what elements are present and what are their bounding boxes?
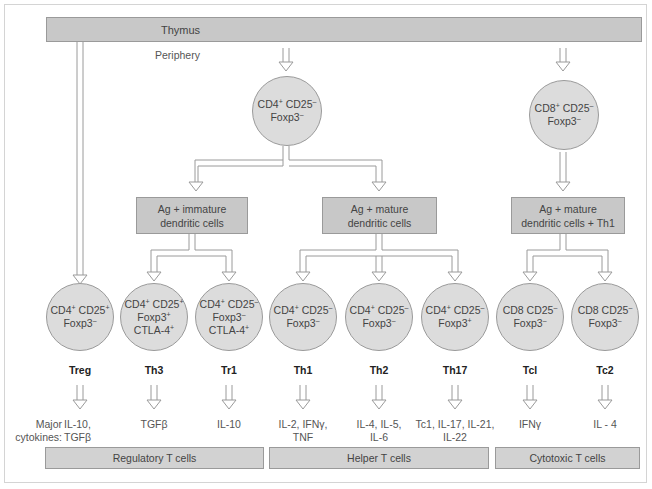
cell-tcl: CD8 CD25–Foxp3– <box>496 283 564 351</box>
stimulus-immature-dc: Ag + immature dendritic cells <box>136 197 248 234</box>
subset-name-th3: Th3 <box>119 364 189 376</box>
cytokines-tc2: IL - 4 <box>568 418 642 431</box>
cell-th3: CD4+ CD25+Foxp3+CTLA-4+ <box>120 283 188 351</box>
thymus-label: Thymus <box>161 24 200 36</box>
naive-cd4-cell: CD4+ CD25–Foxp3– <box>252 76 322 146</box>
cell-th1: CD4+ CD25–Foxp3– <box>269 283 337 351</box>
cell-tr1: CD4+ CD25–Foxp3–CTLA-4+ <box>195 283 263 351</box>
cell-treg: CD4+ CD25+Foxp3– <box>46 283 114 351</box>
cytokines-treg: IL-10, TGFβ <box>59 418 108 444</box>
subset-name-th17: Th17 <box>420 364 490 376</box>
major-cytokines-label: Major cytokines: <box>0 418 62 444</box>
cytokines-tr1: IL-10 <box>192 418 266 431</box>
stimulus-mature-dc: Ag + mature dendritic cells <box>322 197 437 234</box>
connector-arrows <box>0 0 652 489</box>
naive-cd8-cell: CD8+ CD25–Foxp3– <box>529 80 599 150</box>
subset-name-tcl: Tcl <box>495 364 565 376</box>
cell-tc2: CD8 CD25–Foxp3– <box>571 283 639 351</box>
subset-name-treg: Treg <box>45 364 115 376</box>
cell-th17: CD4+ CD25–Foxp3+ <box>421 283 489 351</box>
thymus-bar: Thymus <box>46 17 642 42</box>
cytokines-th2: IL-4, IL-5, IL-6 <box>342 418 416 444</box>
category-cytotoxic: Cytotoxic T cells <box>495 447 640 469</box>
subset-name-th2: Th2 <box>344 364 414 376</box>
subset-name-tc2: Tc2 <box>570 364 640 376</box>
cytokines-th3: TGFβ <box>117 418 191 431</box>
cell-th2: CD4+ CD25–Foxp3– <box>345 283 413 351</box>
subset-name-th1: Th1 <box>268 364 338 376</box>
category-regulatory: Regulatory T cells <box>45 447 264 469</box>
subset-name-tr1: Tr1 <box>194 364 264 376</box>
cytokines-th17: Tc1, IL-17, IL-21, IL-22 <box>410 418 500 444</box>
cytokines-tcl: IFNγ <box>493 418 567 431</box>
category-helper: Helper T cells <box>269 447 489 469</box>
cytokines-th1: IL-2, IFNγ, TNF <box>266 418 340 444</box>
stimulus-mature-dc-th1: Ag + mature dendritic cells + Th1 <box>511 197 625 234</box>
periphery-label: Periphery <box>155 49 200 61</box>
